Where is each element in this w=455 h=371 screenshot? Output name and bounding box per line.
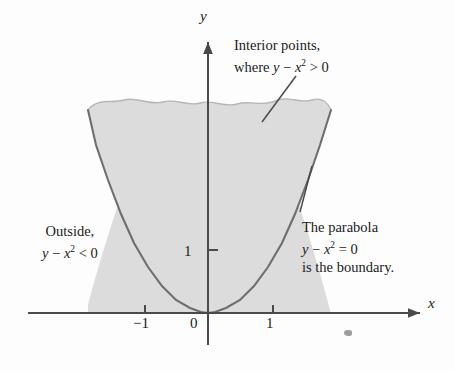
y-axis-label: y [200, 8, 207, 25]
scan-artifact-speck [344, 330, 352, 336]
interior-minus: − [279, 59, 294, 75]
annotation-outside-line2: y − x2 < 0 [42, 240, 98, 262]
interior-where-word: where [234, 59, 273, 75]
annotation-boundary-line1: The parabola [302, 218, 394, 236]
x-tick-label-0: 0 [190, 315, 198, 332]
annotation-interior-points: Interior points, where y − x2 > 0 [234, 36, 329, 76]
annotation-boundary-line2: y − x2 = 0 [302, 236, 394, 258]
x-tick-label-1: 1 [266, 315, 274, 332]
annotation-outside-line1: Outside, [42, 222, 98, 240]
x-axis-label: x [428, 295, 435, 312]
y-axis-arrowhead [203, 42, 213, 54]
x-axis-arrowhead [408, 308, 420, 318]
x-tick-label-neg1: −1 [133, 315, 149, 332]
outside-minus: − [48, 245, 63, 261]
annotation-boundary: The parabola y − x2 = 0 is the boundary. [302, 218, 394, 276]
annotation-interior-line2: where y − x2 > 0 [234, 54, 329, 76]
boundary-relation: = 0 [335, 241, 358, 257]
interior-relation: > 0 [306, 59, 329, 75]
annotation-outside: Outside, y − x2 < 0 [42, 222, 98, 262]
annotation-interior-line1: Interior points, [234, 36, 329, 54]
figure-page: Interior points, where y − x2 > 0 Outsid… [0, 0, 455, 371]
parabola-diagram [0, 0, 455, 371]
annotation-boundary-line3: is the boundary. [302, 258, 394, 276]
boundary-minus: − [308, 241, 323, 257]
y-tick-label-1: 1 [184, 243, 192, 260]
outside-relation: < 0 [75, 245, 98, 261]
